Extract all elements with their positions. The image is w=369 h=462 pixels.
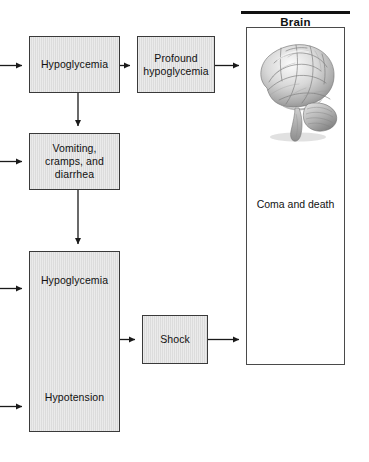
node-hypoglycemia-1-label: Hypoglycemia (38, 58, 111, 71)
flowchart-diagram: Hypoglycemia Profound hypoglycemia Vomit… (0, 0, 369, 462)
node-shock: Shock (142, 315, 208, 364)
brain-panel: Coma and death (246, 27, 345, 365)
node-shock-label: Shock (157, 333, 193, 346)
brain-header-rule (241, 11, 350, 14)
node-hypotension-label: Hypotension (30, 391, 119, 404)
brain-illustration-icon (252, 34, 341, 149)
node-hypoglycemia-1: Hypoglycemia (29, 36, 120, 93)
node-profound-hypoglycemia-label: Profound hypoglycemia (140, 52, 211, 78)
node-vomiting-cramps-diarrhea-label: Vomiting, cramps, and diarrhea (42, 142, 107, 181)
node-vomiting-cramps-diarrhea: Vomiting, cramps, and diarrhea (29, 133, 120, 190)
brain-panel-outcome: Coma and death (247, 198, 344, 210)
node-hypoglycemia-hypotension: Hypoglycemia Hypotension (29, 251, 120, 432)
node-hypoglycemia-2-label: Hypoglycemia (30, 274, 119, 287)
node-profound-hypoglycemia: Profound hypoglycemia (137, 36, 215, 93)
